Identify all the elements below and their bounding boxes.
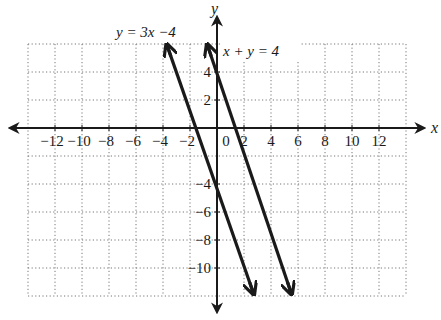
x-tick-label: 4 — [267, 133, 275, 149]
series-line-1 — [167, 45, 253, 293]
x-tick-label: −8 — [98, 133, 114, 149]
series-lines — [167, 45, 291, 293]
x-tick-label: −12 — [40, 133, 63, 149]
y-tick-label: 2 — [204, 92, 212, 108]
x-tick-label: −4 — [152, 133, 168, 149]
y-tick-label: −6 — [195, 204, 211, 220]
y-tick-label: −10 — [188, 260, 211, 276]
coordinate-graph: x y −12−10−8−6−4−2024681012 42−4−6−8−10 … — [0, 0, 441, 320]
equation-label-1: y = 3x −4 — [114, 24, 176, 40]
x-tick-label: 10 — [345, 133, 360, 149]
y-tick-label: −8 — [195, 232, 211, 248]
x-tick-label: 8 — [321, 133, 329, 149]
y-tick-label: −4 — [195, 176, 211, 192]
x-tick-label: 6 — [294, 133, 302, 149]
y-tick-labels: 42−4−6−8−10 — [188, 64, 220, 276]
x-tick-label: −2 — [179, 133, 195, 149]
x-tick-label: 12 — [372, 133, 387, 149]
series-line-2 — [208, 45, 292, 293]
y-axis-label: y — [209, 0, 219, 18]
x-tick-label: −10 — [67, 133, 90, 149]
x-tick-label: −6 — [125, 133, 141, 149]
x-axis-label: x — [430, 119, 438, 136]
x-tick-label: 0 — [222, 133, 230, 149]
equation-label-2: x + y = 4 — [222, 43, 280, 59]
y-tick-label: 4 — [204, 64, 212, 80]
